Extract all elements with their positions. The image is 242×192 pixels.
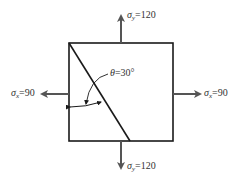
theta-label: θ=30°: [110, 67, 135, 78]
sigma-x-right-label: σx=90: [204, 87, 228, 100]
sigma-y-top-label: σy=120: [127, 9, 156, 22]
inclined-plane-line: [69, 43, 130, 141]
sigma-x-left-label: σx=90: [11, 87, 35, 100]
theta-angle-arc: [70, 102, 101, 107]
sigma-y-bottom-label: σy=120: [127, 160, 156, 173]
